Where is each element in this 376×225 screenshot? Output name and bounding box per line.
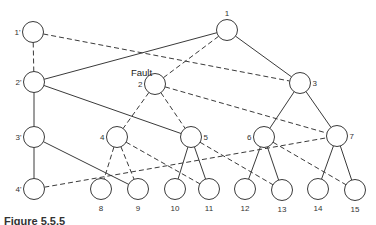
edge-1-2-dashed bbox=[163, 36, 218, 77]
node-label: 13 bbox=[278, 205, 287, 214]
fault-label: Fault bbox=[131, 67, 152, 78]
node-4: 4 bbox=[100, 127, 127, 148]
node-circle bbox=[128, 179, 149, 200]
edge-2-5-dashed bbox=[161, 93, 185, 129]
figure-caption: Figure 5.5.5 bbox=[4, 215, 65, 225]
edges-layer bbox=[33, 33, 351, 187]
node-label: 2' bbox=[16, 78, 22, 87]
node-1: 1 bbox=[217, 9, 238, 41]
node-10: 10 bbox=[165, 179, 186, 213]
node-3: 3 bbox=[290, 73, 318, 94]
edge-3-7-solid bbox=[306, 92, 331, 128]
node-circle bbox=[272, 180, 293, 201]
node-label: 7 bbox=[350, 132, 355, 141]
node-circle bbox=[327, 126, 348, 147]
node-label: 8 bbox=[99, 204, 104, 213]
node-circle bbox=[24, 127, 45, 148]
node-8: 8 bbox=[91, 179, 112, 213]
edge-6-15-dashed bbox=[273, 142, 346, 184]
diagram-canvas: 1'2'3'4'123456789101112131415 Fault Figu… bbox=[0, 0, 376, 225]
node-label: 9 bbox=[136, 204, 141, 213]
node-circle bbox=[254, 127, 275, 148]
tree-graph: 1'2'3'4'123456789101112131415 Fault bbox=[0, 0, 376, 225]
node-circle bbox=[24, 179, 45, 200]
nodes-layer: 1'2'3'4'123456789101112131415 bbox=[15, 9, 366, 214]
node-label: 14 bbox=[314, 204, 323, 213]
node-4': 4' bbox=[16, 179, 45, 200]
node-circle bbox=[345, 180, 366, 201]
edge-1-3-solid bbox=[235, 36, 291, 77]
node-14: 14 bbox=[308, 179, 329, 213]
caption-label: Figure 5.5.5 bbox=[4, 215, 65, 225]
node-label: 4 bbox=[100, 133, 105, 142]
node-13: 13 bbox=[272, 180, 293, 214]
node-11: 11 bbox=[199, 179, 220, 213]
node-1': 1' bbox=[15, 22, 44, 43]
node-label: 15 bbox=[351, 205, 360, 214]
node-label: 11 bbox=[205, 204, 214, 213]
node-circle bbox=[23, 22, 44, 43]
node-circle bbox=[308, 179, 329, 200]
edge-6-13-solid bbox=[267, 147, 278, 180]
node-label: 12 bbox=[241, 204, 250, 213]
edge-7-14-solid bbox=[322, 146, 334, 179]
node-9: 9 bbox=[128, 179, 149, 213]
node-3': 3' bbox=[16, 127, 45, 148]
node-circle bbox=[24, 72, 45, 93]
node-12: 12 bbox=[235, 179, 256, 213]
edge-7-15-solid bbox=[340, 146, 351, 180]
node-label: 4' bbox=[16, 185, 22, 194]
node-label: 3 bbox=[313, 79, 318, 88]
node-label: 10 bbox=[171, 204, 180, 213]
node-label: 1' bbox=[15, 28, 21, 37]
node-7: 7 bbox=[327, 126, 355, 147]
edge-4-11-dashed bbox=[126, 142, 200, 184]
node-circle bbox=[290, 73, 311, 94]
node-circle bbox=[107, 127, 128, 148]
node-2': 2' bbox=[16, 72, 45, 93]
node-label: 3' bbox=[16, 133, 22, 142]
node-circle bbox=[235, 179, 256, 200]
node-label: 2 bbox=[138, 80, 143, 89]
edge-6-12-solid bbox=[249, 147, 261, 179]
edge-5-11-solid bbox=[194, 147, 205, 179]
node-6: 6 bbox=[247, 127, 274, 148]
node-circle bbox=[199, 179, 220, 200]
edge-2-4-dashed bbox=[123, 93, 149, 129]
edge-1'-3-dashed bbox=[43, 34, 289, 81]
node-circle bbox=[181, 127, 202, 148]
node-circle bbox=[165, 179, 186, 200]
edge-3'-9-solid bbox=[43, 142, 128, 185]
node-circle bbox=[91, 179, 112, 200]
edge-1'-2'-dashed bbox=[33, 42, 34, 71]
node-circle bbox=[217, 20, 238, 41]
node-label: 5 bbox=[204, 133, 209, 142]
node-15: 15 bbox=[345, 180, 366, 214]
edge-4-9-dashed bbox=[121, 147, 134, 180]
node-label: 6 bbox=[247, 133, 252, 142]
node-label: 1 bbox=[225, 9, 230, 18]
